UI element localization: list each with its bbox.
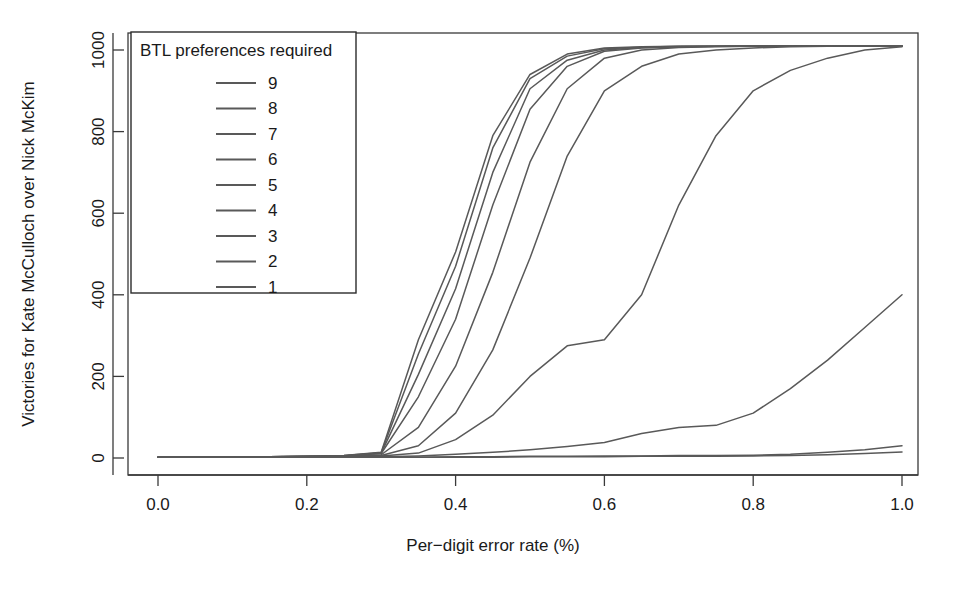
y-tick-label: 400 <box>89 281 108 309</box>
legend-label-2: 2 <box>268 252 277 271</box>
legend-label-1: 1 <box>268 278 277 297</box>
y-tick-label: 0 <box>89 453 108 462</box>
x-tick-label: 0.0 <box>146 495 170 514</box>
chart-legend: BTL preferences required 987654321 <box>131 32 356 297</box>
chart-figure: 0.00.20.40.60.81.0 02004006008001000 Per… <box>0 0 970 598</box>
x-axis-title: Per−digit error rate (%) <box>406 536 579 555</box>
y-tick-label: 600 <box>89 199 108 227</box>
legend-label-9: 9 <box>268 74 277 93</box>
legend-label-7: 7 <box>268 125 277 144</box>
y-axis-title: Victories for Kate McCulloch over Nick M… <box>19 81 38 426</box>
legend-label-6: 6 <box>268 150 277 169</box>
x-tick-label: 0.2 <box>295 495 319 514</box>
legend-label-5: 5 <box>268 176 277 195</box>
legend-label-4: 4 <box>268 201 277 220</box>
x-tick-label: 0.4 <box>444 495 468 514</box>
x-tick-label: 0.8 <box>741 495 765 514</box>
x-tick-label: 1.0 <box>890 495 914 514</box>
x-tick-label: 0.6 <box>593 495 617 514</box>
legend-label-3: 3 <box>268 227 277 246</box>
legend-box <box>131 32 356 293</box>
y-tick-label: 200 <box>89 362 108 390</box>
legend-label-8: 8 <box>268 99 277 118</box>
y-tick-label: 800 <box>89 117 108 145</box>
y-tick-label: 1000 <box>89 31 108 69</box>
line-chart-svg: 0.00.20.40.60.81.0 02004006008001000 Per… <box>0 0 970 598</box>
legend-title: BTL preferences required <box>140 41 332 60</box>
